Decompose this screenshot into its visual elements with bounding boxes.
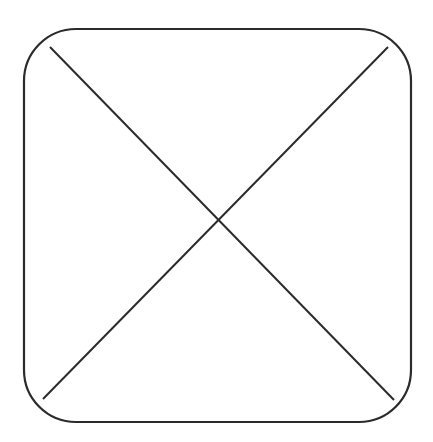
rounded-square — [24, 29, 411, 422]
diagonal-top-right-to-bottom-left — [43, 47, 388, 399]
diagonal-top-left-to-bottom-right — [50, 47, 394, 400]
diagram-canvas — [0, 0, 433, 442]
